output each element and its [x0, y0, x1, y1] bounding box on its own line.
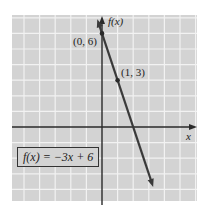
- point-label-0-6: (0, 6): [73, 36, 97, 47]
- x-axis-label: x: [186, 131, 191, 142]
- point-1-3: [115, 78, 120, 83]
- point-0-6: [100, 31, 105, 36]
- function-graph: [0, 0, 204, 217]
- point-label-1-3: (1, 3): [121, 67, 145, 78]
- y-axis-label: f(x): [108, 16, 123, 27]
- equation-label: f(x) = −3x + 6: [17, 147, 99, 167]
- equation-text: f(x) = −3x + 6: [23, 150, 93, 164]
